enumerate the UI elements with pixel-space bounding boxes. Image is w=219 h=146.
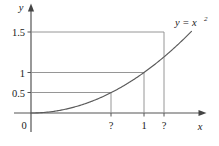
curve-equation-base: y = x <box>174 17 197 28</box>
parabola-plot: y x <box>0 0 219 146</box>
x-tick-label-unknown-high: ? <box>162 120 167 131</box>
y-tick-label-1: 1 <box>20 68 25 79</box>
x-tick-labels: ? 1 ? <box>109 120 167 131</box>
y-axis-label: y <box>18 2 24 13</box>
origin-label: 0 <box>21 120 26 131</box>
y-tick-label-0p5: 0.5 <box>12 88 25 99</box>
x-axis-label: x <box>197 121 203 132</box>
graph-figure: y x <box>0 0 219 146</box>
x-tick-label-unknown-low: ? <box>109 120 114 131</box>
curve-equation-exponent: 2 <box>204 15 208 23</box>
y-tick-label-1p5: 1.5 <box>12 27 25 38</box>
curve-equation-label: y = x 2 <box>174 15 208 28</box>
y-axis-arrow-icon <box>28 4 34 12</box>
y-tick-labels: 1.5 1 0.5 <box>12 27 25 99</box>
x-tick-label-1: 1 <box>141 120 146 131</box>
x-axis-arrow-icon <box>199 110 207 116</box>
